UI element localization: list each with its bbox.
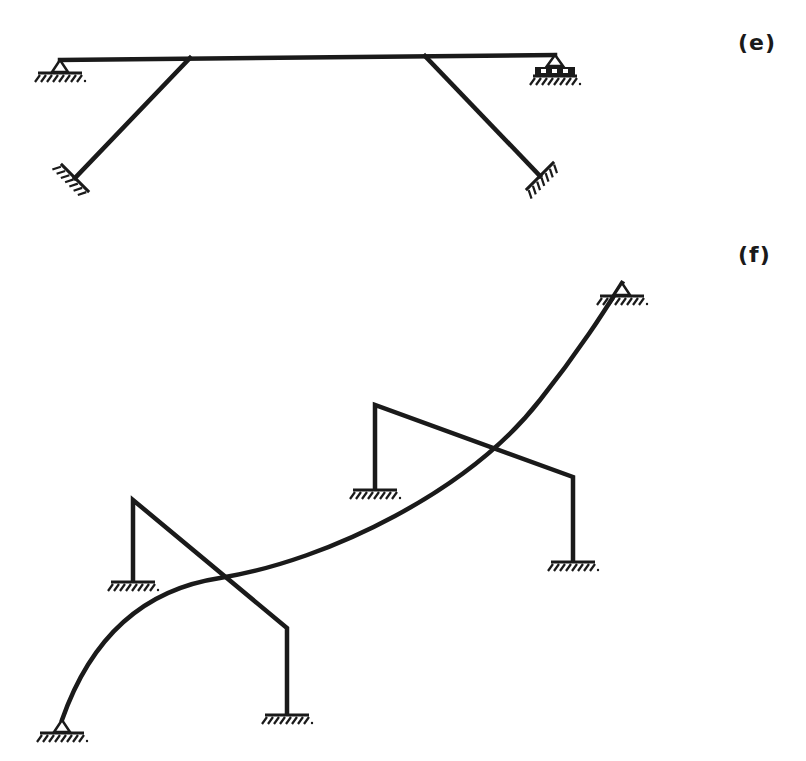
panel-label-e: (e) xyxy=(738,30,776,55)
horizontal-beam xyxy=(60,55,555,60)
fixed-support-frame1-left xyxy=(108,582,159,591)
roller-support-right xyxy=(530,55,581,85)
panel-e xyxy=(35,55,581,199)
strut-left xyxy=(75,58,190,178)
curved-arch-member xyxy=(62,283,622,720)
fixed-support-frame2-right xyxy=(548,562,599,571)
fixed-support-frame1-right xyxy=(262,715,313,724)
pin-support-left xyxy=(35,60,86,82)
panel-label-f: (f) xyxy=(738,242,771,267)
bent-frame-upper xyxy=(375,405,573,560)
strut-right xyxy=(425,56,540,176)
pin-support-arch-top xyxy=(597,283,648,305)
fixed-support-frame2-left xyxy=(350,490,401,499)
structural-diagram xyxy=(0,0,806,761)
pin-support-arch-bottom xyxy=(37,720,88,742)
bent-frame-lower xyxy=(133,500,287,713)
panel-f xyxy=(37,283,648,742)
